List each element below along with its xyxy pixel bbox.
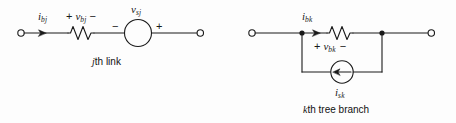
link-voltage-plus: + — [66, 10, 72, 22]
right-terminal — [428, 30, 434, 36]
branch-current-label: ibk — [302, 11, 313, 23]
branch-caption-text: th tree branch — [307, 104, 369, 115]
link-caption: jth link — [92, 57, 121, 67]
link-resistor-voltage-label: +vbj− — [66, 11, 96, 23]
branch-voltage-subscript: bk — [328, 45, 335, 54]
link-caption-text: th link — [95, 56, 121, 67]
link-circuit-diagram: ibj +vbj− vsj − + jth link — [0, 0, 228, 123]
circuit-diagram-figure: ibj +vbj− vsj − + jth link — [0, 0, 456, 123]
branch-current-subscript: bk — [305, 15, 312, 24]
link-source-polarity-minus: − — [112, 21, 118, 32]
link-source-label: vsj — [131, 4, 141, 16]
link-source-subscript: sj — [136, 8, 141, 17]
branch-caption: kth tree branch — [303, 105, 369, 115]
branch-resistor-voltage-label: +vbk− — [314, 41, 346, 53]
voltage-source — [125, 20, 152, 47]
branch-voltage-minus: − — [340, 40, 346, 52]
link-current-label: ibj — [38, 11, 47, 23]
branch-source-label: isk — [335, 87, 345, 99]
branch-source-subscript: sk — [338, 91, 345, 100]
resistor — [68, 27, 94, 40]
link-current-subscript: bj — [41, 15, 47, 24]
left-terminal — [249, 30, 255, 36]
link-voltage-minus: − — [90, 10, 96, 22]
resistor — [327, 27, 353, 40]
branch-circuit-diagram: ibk +vbk− isk kth tree branch — [228, 0, 456, 123]
branch-voltage-plus: + — [314, 40, 320, 52]
link-source-polarity-plus: + — [156, 21, 162, 32]
left-terminal — [18, 30, 24, 36]
link-voltage-subscript: bj — [80, 15, 86, 24]
right-terminal — [197, 30, 203, 36]
